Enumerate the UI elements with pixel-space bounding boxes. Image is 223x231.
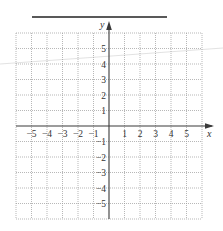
x-tick-label: 2	[138, 129, 143, 139]
x-tick-label: 5	[184, 129, 189, 139]
y-tick-label: 4	[101, 60, 106, 70]
y-tick-label: −3	[96, 168, 106, 178]
y-tick-label: −5	[96, 199, 106, 209]
x-axis-label: x	[206, 128, 212, 139]
x-tick-label: 3	[153, 129, 158, 139]
y-axis-arrow-icon	[106, 21, 112, 30]
y-tick-label: 3	[101, 75, 106, 85]
y-tick-label: −1	[96, 137, 106, 147]
y-tick-label: 5	[101, 44, 106, 54]
y-axis-label: y	[99, 19, 105, 30]
x-tick-label: −3	[57, 129, 67, 139]
y-tick-label: −4	[96, 184, 106, 194]
x-tick-label: −4	[42, 129, 52, 139]
x-tick-label: 4	[169, 129, 174, 139]
stray-line	[0, 48, 223, 64]
y-tick-label: −2	[96, 153, 106, 163]
x-tick-labels: −5−4−3−2−112345	[26, 129, 189, 139]
coordinate-plane: x y −5−4−3−2−112345 54321−1−2−3−4−5	[0, 0, 223, 231]
y-tick-label: 2	[101, 91, 106, 101]
y-tick-label: 1	[101, 106, 106, 116]
x-tick-label: 1	[122, 129, 127, 139]
x-tick-label: −2	[73, 129, 83, 139]
x-tick-label: −5	[26, 129, 36, 139]
